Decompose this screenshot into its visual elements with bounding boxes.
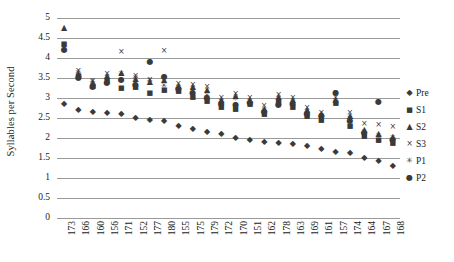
data-point-p1: ✳ (61, 43, 68, 51)
x-tick-label: 179 (211, 221, 221, 235)
data-point-s1: ■ (332, 99, 339, 106)
data-point-pre: ◆ (304, 142, 310, 150)
scatter-chart: Syllables per Second 54.543.532.521.510.… (0, 0, 454, 262)
data-point-p1: ✳ (89, 78, 96, 86)
x-tick-label: 168 (397, 221, 407, 235)
data-point-s2: ▲ (190, 83, 196, 91)
data-point-p2: ● (175, 85, 182, 93)
gridline (57, 78, 400, 79)
x-tick-label: 157 (340, 221, 350, 235)
data-point-p1: ✳ (189, 85, 196, 93)
data-point-p1: ✳ (247, 98, 254, 106)
data-point-s3: × (189, 81, 196, 89)
data-point-s1: ■ (132, 83, 139, 90)
data-point-p2: ● (61, 46, 68, 54)
x-tick-label: 164 (368, 221, 378, 235)
data-point-s2: ▲ (204, 86, 210, 94)
data-point-p2: ● (232, 101, 239, 109)
data-point-s1: ■ (247, 101, 254, 108)
data-point-p2: ● (132, 81, 139, 89)
gridline (57, 178, 400, 179)
y-tick-label: 5 (45, 13, 50, 23)
data-point-s1: ■ (218, 103, 225, 110)
y-tick-label: 1 (45, 173, 50, 183)
data-point-s3: × (375, 121, 382, 129)
legend-marker-icon: ✳ (404, 156, 415, 165)
x-tick-label: 167 (383, 221, 393, 235)
data-point-p1: ✳ (118, 70, 125, 78)
gridline (57, 38, 400, 39)
data-point-p2: ● (189, 89, 196, 97)
data-point-p2: ● (289, 100, 296, 108)
data-point-s1: ■ (261, 111, 268, 118)
data-point-pre: ◆ (104, 109, 110, 117)
legend-item-label: P2 (415, 173, 426, 183)
data-point-s3: × (61, 44, 68, 52)
legend-item-p1[interactable]: ✳P1 (404, 152, 452, 169)
data-point-s1: ■ (232, 106, 239, 113)
y-tick-label: 3.5 (38, 73, 50, 83)
plot-area: ◆◆◆◆◆◆◆◆◆◆◆◆◆◆◆◆◆◆◆◆◆◆◆◆■■■■■■■■■■■■■■■■… (57, 18, 400, 218)
data-point-s1: ■ (347, 123, 354, 130)
legend-item-label: S3 (415, 139, 426, 149)
x-tick-label: 169 (311, 221, 321, 235)
legend-marker-icon: ■ (404, 106, 415, 114)
legend-item-pre[interactable]: ◆Pre (404, 84, 452, 101)
data-point-pre: ◆ (118, 110, 124, 118)
data-point-pre: ◆ (290, 140, 296, 148)
x-tick-label: 171 (125, 221, 135, 235)
legend-item-label: Pre (415, 88, 429, 98)
data-point-pre: ◆ (90, 108, 96, 116)
gridline (57, 158, 400, 159)
y-tick-label: 0.5 (38, 193, 50, 203)
data-point-p2: ● (375, 98, 382, 106)
data-point-s1: ■ (175, 87, 182, 94)
data-point-s2: ▲ (75, 70, 81, 78)
gridline (57, 198, 400, 199)
x-tick-label: 177 (154, 221, 164, 235)
x-tick-label: 160 (97, 221, 107, 235)
x-tick-label: 178 (283, 221, 293, 235)
data-point-pre: ◆ (275, 139, 281, 147)
gridline (57, 58, 400, 59)
data-point-s3: × (347, 109, 354, 117)
legend-marker-icon: ◆ (404, 88, 415, 97)
y-tick-label: 4 (45, 53, 50, 63)
y-axis-title-label: Syllables per Second (5, 66, 16, 156)
legend-item-p2[interactable]: ●P2 (404, 169, 452, 186)
data-point-s3: × (232, 90, 239, 98)
gridline (57, 98, 400, 99)
data-point-p2: ● (218, 100, 225, 108)
data-point-s2: ▲ (375, 130, 381, 138)
data-point-s2: ▲ (90, 79, 96, 87)
x-tick-label: 161 (325, 221, 335, 235)
legend-marker-icon: ● (404, 173, 415, 182)
x-tick-label: 180 (168, 221, 178, 235)
data-point-s1: ■ (390, 139, 397, 146)
x-tick-label: 175 (197, 221, 207, 235)
legend-item-label: P1 (415, 156, 426, 166)
data-point-p2: ● (261, 108, 268, 116)
data-point-p2: ● (104, 79, 111, 87)
data-point-p1: ✳ (75, 69, 82, 77)
data-point-pre: ◆ (204, 128, 210, 136)
data-point-s3: × (361, 120, 368, 128)
legend-item-s1[interactable]: ■S1 (404, 101, 452, 118)
x-tick-label: 173 (68, 221, 78, 235)
data-point-s3: × (175, 80, 182, 88)
x-tick-label: 156 (111, 221, 121, 235)
x-axis-tick-labels: 1731661601561711521771801551751791721701… (57, 219, 400, 262)
legend-item-s3[interactable]: ×S3 (404, 135, 452, 152)
data-point-p2: ● (89, 83, 96, 91)
gridline (57, 118, 400, 119)
x-tick-label: 163 (297, 221, 307, 235)
legend-item-s2[interactable]: ▲S2 (404, 118, 452, 135)
data-point-pre: ◆ (261, 138, 267, 146)
y-tick-label: 2 (45, 133, 50, 143)
data-point-p2: ● (332, 89, 339, 97)
data-point-p2: ● (361, 129, 368, 137)
data-point-s3: × (75, 67, 82, 75)
data-point-s2: ▲ (361, 126, 367, 134)
data-point-s2: ▲ (318, 110, 324, 118)
y-tick-label: 0 (45, 213, 50, 223)
